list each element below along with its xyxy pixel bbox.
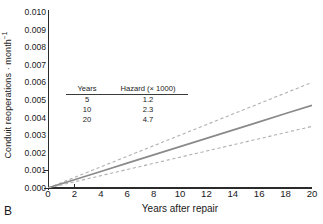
hazard-inset-table: Years Hazard (× 1000) 51.2102.3204.7 xyxy=(66,84,188,124)
y-tick-label: 0.002 xyxy=(24,149,46,158)
inset-cell-years: 5 xyxy=(66,95,108,105)
x-tick-label: 10 xyxy=(175,189,186,199)
inset-cell-years: 10 xyxy=(66,105,108,115)
x-tick-label: 18 xyxy=(280,189,291,199)
y-axis-tick-labels: 0.0000.0010.0020.0030.0040.0050.0060.007… xyxy=(14,0,48,194)
panel-label: B xyxy=(4,204,12,218)
inset-table-body: 51.2102.3204.7 xyxy=(66,95,188,125)
y-tick-mark xyxy=(44,170,48,171)
inset-table-row: 204.7 xyxy=(66,115,188,125)
x-axis-tick-labels: 02468101214161820 xyxy=(48,189,318,203)
x-tick-label: 16 xyxy=(254,189,265,199)
y-tick-label: 0.007 xyxy=(24,61,46,70)
x-tick-label: 14 xyxy=(227,189,238,199)
y-tick-label: 0.000 xyxy=(24,184,46,193)
y-tick-label: 0.003 xyxy=(24,131,46,140)
y-axis-title-text: Conduit reoperations · month xyxy=(2,39,12,158)
inset-cell-hazard: 2.3 xyxy=(108,105,188,115)
y-tick-label: 0.006 xyxy=(24,78,46,87)
inset-cell-hazard: 4.7 xyxy=(108,115,188,125)
y-tick-label: 0.010 xyxy=(24,8,46,17)
inset-header-hazard: Hazard (× 1000) xyxy=(108,84,188,95)
inset-table-header-row: Years Hazard (× 1000) xyxy=(66,84,188,95)
x-axis-title: Years after repair xyxy=(48,203,312,214)
inset-cell-years: 20 xyxy=(66,115,108,125)
inset-table-row: 102.3 xyxy=(66,105,188,115)
y-axis-title: Conduit reoperations · month−1 xyxy=(0,0,14,190)
hazard-figure-panel: Conduit reoperations · month−1 0.0000.00… xyxy=(0,0,323,224)
inset-cell-hazard: 1.2 xyxy=(108,95,188,105)
x-tick-label: 12 xyxy=(201,189,212,199)
inset-header-years: Years xyxy=(66,84,108,95)
y-axis-title-exponent: −1 xyxy=(0,32,7,40)
x-tick-label: 0 xyxy=(45,189,50,199)
x-tick-label: 6 xyxy=(125,189,130,199)
y-tick-label: 0.008 xyxy=(24,43,46,52)
x-tick-label: 2 xyxy=(72,189,77,199)
x-tick-label: 20 xyxy=(307,189,318,199)
y-tick-label: 0.009 xyxy=(24,25,46,34)
x-tick-label: 4 xyxy=(98,189,103,199)
y-tick-label: 0.005 xyxy=(24,96,46,105)
y-tick-label: 0.001 xyxy=(24,166,46,175)
y-tick-label: 0.004 xyxy=(24,113,46,122)
inset-table-row: 51.2 xyxy=(66,95,188,105)
x-tick-label: 8 xyxy=(151,189,156,199)
